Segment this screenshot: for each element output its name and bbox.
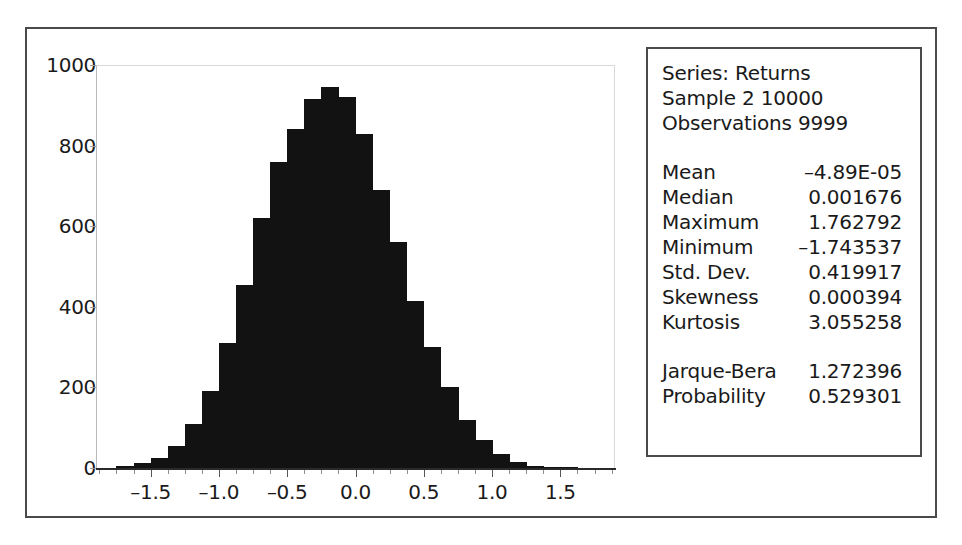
x-axis-minor-tick xyxy=(168,470,169,474)
x-axis-minor-tick xyxy=(270,470,271,474)
statistic-value: 0.001676 xyxy=(792,185,902,210)
statistic-label: Median xyxy=(662,185,792,210)
statistics-rows: Mean–4.89E-05Median0.001676Maximum1.7627… xyxy=(662,160,920,335)
statistic-label: Skewness xyxy=(662,285,792,310)
x-axis-tick-mark xyxy=(356,470,357,477)
histogram-bar xyxy=(373,190,391,468)
x-axis-minor-tick xyxy=(526,470,527,474)
x-axis-tick-mark xyxy=(151,470,152,477)
histogram-bar xyxy=(185,424,203,468)
y-axis-tick-label: 400 xyxy=(40,297,96,317)
statistic-test-row: Probability0.529301 xyxy=(662,384,902,409)
statistics-header-line: Series: Returns xyxy=(662,61,920,86)
statistics-header-line: Sample 2 10000 xyxy=(662,86,920,111)
x-axis-minor-tick xyxy=(475,470,476,474)
y-axis-tick-label: 200 xyxy=(40,377,96,397)
statistic-row: Maximum1.762792 xyxy=(662,210,902,235)
statistic-row: Mean–4.89E-05 xyxy=(662,160,902,185)
statistic-label: Minimum xyxy=(662,235,792,260)
histogram-bar xyxy=(458,420,476,468)
spacer xyxy=(662,335,920,359)
statistic-label: Kurtosis xyxy=(662,310,792,335)
histogram-bar xyxy=(338,97,356,468)
histogram-bar xyxy=(287,129,305,468)
spacer xyxy=(662,136,920,160)
histogram-bar xyxy=(492,454,510,468)
x-axis-tick-label: 0.0 xyxy=(321,482,391,502)
x-axis-minor-tick xyxy=(509,470,510,474)
histogram-bar xyxy=(475,440,493,468)
x-axis-tick-mark xyxy=(560,470,561,477)
x-axis-tick-mark xyxy=(287,470,288,477)
statistics-panel: Series: ReturnsSample 2 10000Observation… xyxy=(646,47,922,457)
statistic-label: Mean xyxy=(662,160,792,185)
histogram-bar xyxy=(424,347,442,468)
statistic-row: Kurtosis3.055258 xyxy=(662,310,902,335)
y-axis-tick-label: 800 xyxy=(40,136,96,156)
statistics-tests: Jarque-Bera1.272396Probability0.529301 xyxy=(662,359,920,409)
statistic-label: Jarque-Bera xyxy=(662,359,792,384)
statistic-row: Skewness0.000394 xyxy=(662,285,902,310)
x-axis-minor-tick xyxy=(373,470,374,474)
x-axis-tick-mark xyxy=(424,470,425,477)
statistic-test-row: Jarque-Bera1.272396 xyxy=(662,359,902,384)
y-axis: 02004006008001000 xyxy=(27,29,96,520)
x-axis-tick-label: 1.5 xyxy=(525,482,595,502)
x-axis-tick-label: 0.5 xyxy=(389,482,459,502)
x-axis-minor-tick xyxy=(595,470,596,474)
statistic-value: –1.743537 xyxy=(792,235,902,260)
histogram-bar xyxy=(441,387,459,468)
histogram-bar xyxy=(202,391,220,468)
x-axis-minor-tick xyxy=(458,470,459,474)
x-axis-minor-tick xyxy=(321,470,322,474)
histogram-bars xyxy=(96,65,615,468)
x-axis-minor-tick xyxy=(441,470,442,474)
x-axis-minor-tick xyxy=(304,470,305,474)
x-axis-minor-tick xyxy=(253,470,254,474)
statistic-value: 0.000394 xyxy=(792,285,902,310)
statistic-row: Minimum–1.743537 xyxy=(662,235,902,260)
histogram-bar xyxy=(270,162,288,468)
statistic-value: 1.762792 xyxy=(792,210,902,235)
statistic-row: Median0.001676 xyxy=(662,185,902,210)
statistic-value: 0.419917 xyxy=(792,260,902,285)
x-axis-minor-tick xyxy=(116,470,117,474)
x-axis-minor-tick xyxy=(236,470,237,474)
x-axis-minor-tick xyxy=(577,470,578,474)
histogram-bar xyxy=(304,99,322,468)
x-axis-minor-tick xyxy=(134,470,135,474)
histogram-report: 02004006008001000 –1.5–1.0–0.50.00.51.01… xyxy=(0,0,962,545)
x-axis-minor-tick xyxy=(99,470,100,474)
histogram-bar xyxy=(168,446,186,468)
histogram-bar xyxy=(321,87,339,468)
histogram-bar xyxy=(407,301,425,468)
histogram-bar xyxy=(356,134,374,468)
report-frame: 02004006008001000 –1.5–1.0–0.50.00.51.01… xyxy=(25,27,937,518)
x-axis-minor-tick xyxy=(407,470,408,474)
histogram-bar xyxy=(219,343,237,468)
statistic-label: Maximum xyxy=(662,210,792,235)
histogram-bar xyxy=(151,458,169,468)
x-axis-tick-label: –1.5 xyxy=(116,482,186,502)
x-axis-tick-label: –1.0 xyxy=(184,482,254,502)
y-axis-tick-label: 1000 xyxy=(40,55,96,75)
statistics-header: Series: ReturnsSample 2 10000Observation… xyxy=(662,61,920,136)
y-axis-tick-label: 600 xyxy=(40,216,96,236)
histogram-bar xyxy=(390,242,408,468)
x-axis-minor-tick xyxy=(338,470,339,474)
statistic-value: 0.529301 xyxy=(792,384,902,409)
y-axis-tick-label: 0 xyxy=(40,458,96,478)
statistic-value: –4.89E-05 xyxy=(792,160,902,185)
statistics-header-line: Observations 9999 xyxy=(662,111,920,136)
histogram-chart: 02004006008001000 –1.5–1.0–0.50.00.51.01… xyxy=(27,29,647,520)
x-axis-tick-label: –0.5 xyxy=(252,482,322,502)
statistic-label: Std. Dev. xyxy=(662,260,792,285)
statistic-label: Probability xyxy=(662,384,792,409)
x-axis-minor-tick xyxy=(543,470,544,474)
x-axis-minor-tick xyxy=(612,470,613,474)
x-axis-minor-tick xyxy=(202,470,203,474)
x-axis-minor-tick xyxy=(390,470,391,474)
histogram-bar xyxy=(236,285,254,468)
x-axis-tick-mark xyxy=(492,470,493,477)
x-axis-tick-label: 1.0 xyxy=(457,482,527,502)
